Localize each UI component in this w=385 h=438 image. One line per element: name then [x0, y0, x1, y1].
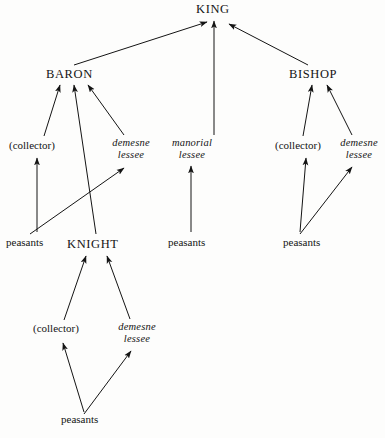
node-baron-label: BARON [46, 67, 93, 81]
node-peasants-baron[interactable]: peasants [6, 236, 43, 248]
edge-baron-demesne-to-baron [88, 85, 124, 135]
edge-bishop-to-king [229, 24, 308, 65]
edge-bishop-collector-to-bishop [303, 85, 312, 136]
node-bishop-demesne-lessee-line2: lessee [334, 149, 384, 161]
node-bishop-collector-label: (collector) [275, 139, 321, 151]
node-manorial-lessee-line1: manorial [168, 137, 216, 149]
node-baron-collector[interactable]: (collector) [9, 139, 55, 151]
edge-knight-demesne-to-knight [107, 256, 130, 319]
edge-peasants-to-bishop-collector [300, 158, 306, 232]
node-manorial-lessee-line2: lessee [168, 149, 216, 161]
node-baron-demesne-lessee-line2: lessee [106, 149, 156, 161]
node-king-label: KING [196, 2, 230, 16]
node-knight-label: KNIGHT [67, 237, 119, 251]
edge-peasants-to-bishop-demesne [300, 167, 352, 234]
node-peasants-manorial[interactable]: peasants [168, 236, 205, 248]
node-peasants-knight[interactable]: peasants [61, 413, 98, 425]
node-knight-demesne-lessee[interactable]: demesne lessee [112, 321, 162, 345]
edge-knight-to-baron [74, 85, 96, 234]
edge-knight-collector-to-knight [64, 256, 86, 320]
node-knight-collector[interactable]: (collector) [33, 322, 79, 334]
node-king[interactable]: KING [196, 2, 230, 16]
edge-peasants-to-baron-demesne [30, 168, 124, 234]
node-peasants-manorial-label: peasants [168, 236, 205, 248]
node-knight-demesne-lessee-line2: lessee [112, 333, 162, 345]
node-knight-collector-label: (collector) [33, 322, 79, 334]
node-bishop[interactable]: BISHOP [289, 67, 337, 81]
node-baron-demesne-lessee-line1: demesne [106, 137, 156, 149]
node-knight-demesne-lessee-line1: demesne [112, 321, 162, 333]
node-bishop-demesne-lessee[interactable]: demesne lessee [334, 137, 384, 161]
node-baron[interactable]: BARON [46, 67, 93, 81]
edge-baron-collector-to-baron [44, 85, 60, 136]
node-bishop-demesne-lessee-line1: demesne [334, 137, 384, 149]
node-knight[interactable]: KNIGHT [67, 237, 119, 251]
node-baron-collector-label: (collector) [9, 139, 55, 151]
node-peasants-knight-label: peasants [61, 413, 98, 425]
feudal-hierarchy-diagram: KING BARON BISHOP (collector) demesne le… [0, 0, 385, 438]
edge-bishop-demesne-to-bishop [327, 85, 352, 135]
node-manorial-lessee[interactable]: manorial lessee [168, 137, 216, 161]
edge-peasants-to-knight-collector [63, 343, 84, 412]
edge-baron-to-king [74, 22, 207, 65]
node-baron-demesne-lessee[interactable]: demesne lessee [106, 137, 156, 161]
edge-layer [0, 0, 385, 438]
node-bishop-collector[interactable]: (collector) [275, 139, 321, 151]
node-bishop-label: BISHOP [289, 67, 337, 81]
node-peasants-bishop-label: peasants [283, 236, 320, 248]
edge-peasants-to-knight-demesne [84, 351, 131, 414]
node-peasants-bishop[interactable]: peasants [283, 236, 320, 248]
node-peasants-baron-label: peasants [6, 236, 43, 248]
